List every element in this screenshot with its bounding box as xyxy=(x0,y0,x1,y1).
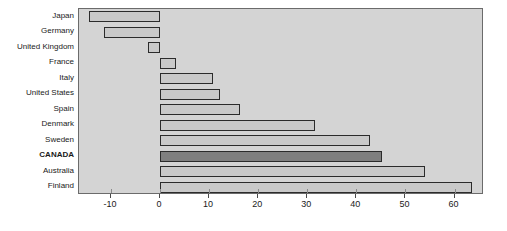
category-label-australia: Australia xyxy=(0,166,74,176)
category-label-united-states: United States xyxy=(0,88,74,98)
bar-japan xyxy=(89,11,160,22)
x-tick-label--10: -10 xyxy=(103,199,116,209)
x-inner-tick-0 xyxy=(160,189,161,193)
bar-united-kingdom xyxy=(148,42,160,53)
x-tick-mark-20 xyxy=(257,194,258,198)
x-inner-tick-10 xyxy=(209,189,210,193)
bar-finland xyxy=(160,182,472,193)
bar-france xyxy=(160,58,176,69)
category-axis-labels: JapanGermanyUnited KingdomFranceItalyUni… xyxy=(0,8,74,194)
x-tick-mark-50 xyxy=(404,194,405,198)
category-label-denmark: Denmark xyxy=(0,119,74,129)
category-label-finland: Finland xyxy=(0,181,74,191)
category-label-united-kingdom: United Kingdom xyxy=(0,42,74,52)
x-inner-tick-50 xyxy=(405,189,406,193)
x-tick-mark-30 xyxy=(306,194,307,198)
category-label-sweden: Sweden xyxy=(0,135,74,145)
plot-area xyxy=(78,8,483,194)
category-label-italy: Italy xyxy=(0,73,74,83)
bar-sweden xyxy=(160,135,370,146)
x-inner-tick-20 xyxy=(258,189,259,193)
x-axis-tick-labels: -100102030405060 xyxy=(78,199,483,213)
x-tick-label-20: 20 xyxy=(252,199,262,209)
category-label-france: France xyxy=(0,57,74,67)
x-tick-label-0: 0 xyxy=(156,199,161,209)
x-tick-mark-60 xyxy=(454,194,455,198)
x-inner-tick-30 xyxy=(307,189,308,193)
x-tick-label-10: 10 xyxy=(203,199,213,209)
x-tick-label-30: 30 xyxy=(301,199,311,209)
x-tick-label-40: 40 xyxy=(350,199,360,209)
x-tick-mark--10 xyxy=(110,194,111,198)
x-tick-label-60: 60 xyxy=(449,199,459,209)
bar-united-states xyxy=(160,89,220,100)
x-tick-mark-40 xyxy=(355,194,356,198)
bar-canada xyxy=(160,151,382,162)
x-inner-tick-40 xyxy=(356,189,357,193)
bar-italy xyxy=(160,73,213,84)
bar-denmark xyxy=(160,120,315,131)
bar-australia xyxy=(160,166,425,177)
category-label-canada: CANADA xyxy=(0,150,74,160)
category-label-germany: Germany xyxy=(0,26,74,36)
category-label-japan: Japan xyxy=(0,11,74,21)
x-tick-mark-0 xyxy=(159,194,160,198)
bar-spain xyxy=(160,104,240,115)
category-label-spain: Spain xyxy=(0,104,74,114)
x-inner-tick-60 xyxy=(455,189,456,193)
x-tick-label-50: 50 xyxy=(399,199,409,209)
bar-germany xyxy=(104,27,160,38)
bar-chart: JapanGermanyUnited KingdomFranceItalyUni… xyxy=(0,0,507,231)
x-inner-tick--10 xyxy=(111,189,112,193)
x-tick-mark-10 xyxy=(208,194,209,198)
